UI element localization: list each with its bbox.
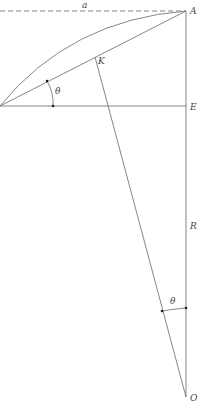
radius-OK-line: [95, 57, 186, 397]
theta-arc-top: [47, 81, 53, 106]
label-K: K: [97, 56, 106, 66]
arc-end-dot: [46, 80, 49, 83]
arc-end-dot: [161, 310, 164, 313]
arc-end-dot: [185, 307, 188, 310]
chord-line: [0, 11, 186, 106]
arc-end-dot: [52, 105, 55, 108]
label-O: O: [190, 393, 198, 403]
label-theta-top: θ: [55, 86, 61, 96]
label-A: A: [189, 6, 197, 16]
label-a: a: [82, 0, 87, 10]
geometry-diagram: a A K E R O θ θ: [0, 0, 209, 409]
label-theta-bottom: θ: [170, 296, 176, 306]
label-R: R: [189, 221, 197, 231]
theta-arc-bottom: [162, 308, 186, 311]
label-E: E: [189, 102, 197, 112]
